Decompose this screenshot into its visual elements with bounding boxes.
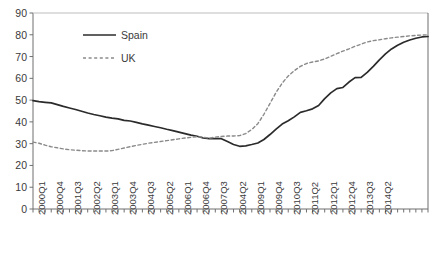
line-chart-plot [0,0,443,270]
x-tick-label: 2012Q4 [347,181,357,215]
y-tick-marks [30,13,34,209]
x-tick-label: 2005Q2 [165,181,175,215]
x-tick-label: 2009Q4 [274,181,284,215]
y-tick-label: 30 [3,139,27,150]
x-tick-label: 2004Q3 [146,181,156,215]
axis-frame [33,13,428,209]
x-tick-label: 2003Q1 [110,181,120,215]
series-lines [33,35,428,151]
x-tick-label: 2007Q3 [219,181,229,215]
x-tick-label: 2002Q2 [92,181,102,215]
legend-line-samples [83,35,116,58]
legend-label-spain: Spain [121,30,148,41]
x-tick-label: 2004Q2 [238,181,248,215]
x-tick-label: 2006Q4 [201,181,211,215]
x-tick-label: 2014Q2 [383,181,393,215]
y-tick-label: 50 [3,95,27,106]
x-tick-label: 2012Q1 [329,181,339,215]
x-tick-label: 2001Q3 [73,181,83,215]
y-tick-label: 90 [3,8,27,19]
y-tick-label: 20 [3,160,27,171]
x-tick-label: 2013Q3 [365,181,375,215]
y-tick-label: 80 [3,30,27,41]
chart-container: 0102030405060708090 2000Q12000Q42001Q320… [0,0,443,270]
y-tick-label: 10 [3,182,27,193]
series-line-uk [33,35,428,151]
x-tick-label: 2000Q4 [55,181,65,215]
x-tick-label: 2003Q4 [128,181,138,215]
y-tick-label: 60 [3,73,27,84]
y-tick-label: 40 [3,117,27,128]
series-line-spain [33,37,428,147]
x-tick-label: 2010Q3 [292,181,302,215]
legend-label-uk: UK [121,53,136,64]
x-tick-label: 2006Q1 [183,181,193,215]
y-tick-label: 0 [3,204,27,215]
x-tick-label: 2009Q1 [256,181,266,215]
x-tick-label: 2011Q2 [310,182,320,215]
x-tick-label: 2000Q1 [37,181,47,215]
y-tick-label: 70 [3,52,27,63]
